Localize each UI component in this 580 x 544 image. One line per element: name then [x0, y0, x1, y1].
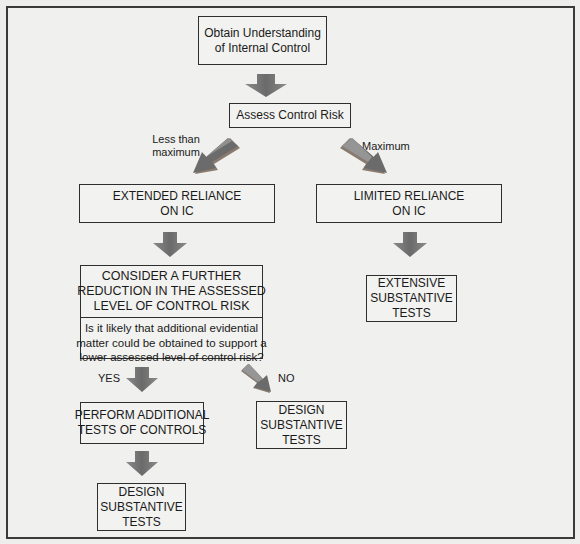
node-text: DESIGN [118, 485, 164, 500]
node-text: LEVEL OF CONTROL RISK [77, 299, 266, 314]
node-text: lower assessed level of control risk? [76, 350, 267, 365]
node-obtain-understanding: Obtain Understanding of Internal Control [198, 16, 327, 65]
node-consider-reduction: CONSIDER A FURTHER REDUCTION IN THE ASSE… [80, 265, 263, 359]
node-text: Is it likely that additional evidential [76, 321, 267, 336]
node-design-substantive-tests-yes: DESIGN SUBSTANTIVE TESTS [97, 483, 186, 531]
edge-label-no: NO [278, 372, 295, 385]
node-text: matter could be obtained to support a [76, 336, 267, 351]
node-perform-additional-tests: PERFORM ADDITIONAL TESTS OF CONTROLS [80, 402, 204, 444]
node-text: ON IC [392, 204, 425, 219]
arrow-down-right-icon [338, 138, 388, 176]
node-text: REDUCTION IN THE ASSESSED [77, 284, 266, 299]
node-text: TESTS OF CONTROLS [78, 423, 207, 438]
node-text: PERFORM ADDITIONAL [75, 408, 210, 423]
arrow-down-left-icon [192, 138, 242, 176]
node-text: SUBSTANTIVE [370, 291, 452, 306]
arrow-down-icon [125, 367, 159, 393]
label-text: YES [98, 372, 120, 384]
node-text: LIMITED RELIANCE [354, 189, 465, 204]
node-limited-reliance: LIMITED RELIANCE ON IC [316, 184, 502, 223]
edge-label-yes: YES [98, 372, 120, 385]
node-text: SUBSTANTIVE [100, 500, 182, 515]
node-text: Obtain Understanding [204, 26, 321, 41]
node-text: EXTENSIVE [378, 276, 445, 291]
arrow-down-icon [392, 232, 428, 258]
node-text: ON IC [160, 204, 193, 219]
node-extensive-substantive-tests: EXTENSIVE SUBSTANTIVE TESTS [366, 275, 457, 322]
label-text: NO [278, 372, 295, 384]
node-extended-reliance: EXTENDED RELIANCE ON IC [79, 184, 275, 223]
arrow-down-right-icon [240, 364, 272, 394]
node-design-substantive-tests-no: DESIGN SUBSTANTIVE TESTS [256, 401, 347, 449]
node-assess-control-risk: Assess Control Risk [229, 103, 351, 128]
arrow-down-icon [125, 451, 159, 477]
arrow-down-icon [244, 74, 288, 98]
node-text: SUBSTANTIVE [260, 418, 342, 433]
node-text: Assess Control Risk [236, 108, 343, 123]
arrow-down-icon [152, 232, 188, 258]
node-question: Is it likely that additional evidential … [76, 321, 267, 365]
node-text: TESTS [392, 306, 431, 321]
node-heading: CONSIDER A FURTHER REDUCTION IN THE ASSE… [77, 269, 266, 314]
node-text: DESIGN [278, 403, 324, 418]
node-text: TESTS [282, 433, 321, 448]
node-text: of Internal Control [215, 41, 310, 56]
node-text: TESTS [122, 515, 161, 530]
node-text: CONSIDER A FURTHER [77, 269, 266, 284]
node-text: EXTENDED RELIANCE [113, 189, 242, 204]
node-divider [81, 317, 262, 318]
